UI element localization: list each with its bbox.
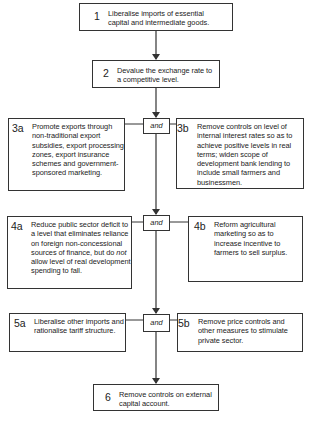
step-text: Remove controls on external capital acco… bbox=[119, 390, 215, 409]
step-5b-box: 5b Remove price controls and other measu… bbox=[177, 313, 303, 352]
step-text: Devalue the exchange rate to a competiti… bbox=[117, 66, 217, 85]
step-4b-box: 4b Reform agricultural marketing so as t… bbox=[188, 216, 303, 282]
step-number: 4b bbox=[194, 221, 214, 231]
step-2-box: 2 Devalue the exchange rate to a competi… bbox=[92, 60, 220, 88]
step-number: 4a bbox=[11, 221, 31, 231]
step-text: Reduce public sector deficit to a level … bbox=[31, 220, 131, 276]
step-number: 3b bbox=[177, 123, 197, 133]
step-number: 6 bbox=[105, 392, 119, 402]
step-text: Reform agricultural marketing so as to i… bbox=[214, 220, 298, 257]
and-connector-5: and bbox=[143, 314, 170, 332]
step-number: 5a bbox=[14, 318, 34, 328]
step-6-box: 6 Remove controls on external capital ac… bbox=[93, 384, 219, 411]
step-text: Remove price controls and other measures… bbox=[198, 317, 302, 345]
step-text: Liberalise other imports and rationalise… bbox=[34, 317, 124, 336]
step-number: 5b bbox=[178, 318, 198, 328]
and-connector-3: and bbox=[143, 118, 170, 134]
step-number: 3a bbox=[12, 123, 32, 133]
step-3a-box: 3a Promote exports through non-tradition… bbox=[8, 118, 125, 191]
emphasis-not: not bbox=[116, 248, 126, 257]
step-number: 1 bbox=[94, 11, 108, 21]
and-connector-4: and bbox=[143, 215, 170, 231]
step-5a-box: 5a Liberalise other imports and rational… bbox=[9, 313, 126, 352]
step-text: Liberalise imports of essential capital … bbox=[108, 9, 226, 28]
step-1-box: 1 Liberalise imports of essential capita… bbox=[79, 3, 233, 31]
step-number: 2 bbox=[103, 68, 117, 78]
step-text: Promote exports through non-traditional … bbox=[32, 122, 124, 178]
step-text: Remove controls on level of internal int… bbox=[197, 122, 301, 187]
step-4a-box: 4a Reduce public sector deficit to a lev… bbox=[7, 216, 132, 289]
step-3b-box: 3b Remove controls on level of internal … bbox=[176, 118, 304, 189]
